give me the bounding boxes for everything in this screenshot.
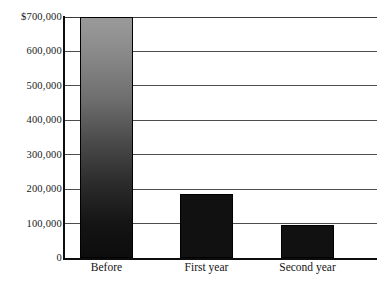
- x-axis-line: [63, 258, 377, 260]
- y-axis-tick-label: 100,000: [4, 218, 62, 229]
- x-axis-label-first-year: First year: [150, 262, 263, 274]
- x-axis-label-second-year: Second year: [251, 262, 364, 274]
- bar-chart: 0100,000200,000300,000400,000500,000600,…: [0, 0, 392, 282]
- x-axis-label-before: Before: [50, 262, 163, 274]
- y-axis-tick-label: 400,000: [4, 115, 62, 126]
- y-axis-tick-label: 500,000: [4, 81, 62, 92]
- y-axis-tick-label: 600,000: [4, 46, 62, 57]
- y-axis-tick-label: $700,000: [4, 12, 62, 23]
- bar-first-year: [180, 194, 233, 258]
- y-axis-tick-label: 200,000: [4, 184, 62, 195]
- y-axis-line: [63, 16, 65, 259]
- y-axis-tick-label: 300,000: [4, 149, 62, 160]
- bar-second-year: [281, 225, 334, 258]
- bar-before: [80, 17, 133, 258]
